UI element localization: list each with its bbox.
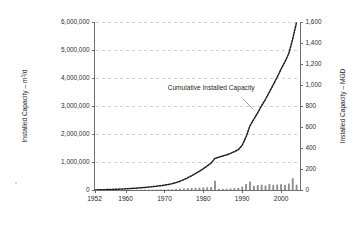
bar <box>218 189 220 190</box>
bar <box>261 185 263 190</box>
cumulative-capacity-annotation: Cumulative Installed Capacity <box>168 84 256 92</box>
left-axis-tick-label: 6,000,000 <box>61 18 90 25</box>
cumulative-capacity-line <box>95 22 297 190</box>
bar <box>230 189 232 190</box>
bar <box>206 187 208 190</box>
bar <box>183 188 185 190</box>
bar-series <box>132 178 297 190</box>
left-axis-tick-label: 5,000,000 <box>61 46 90 53</box>
x-axis-tick-label: 2000 <box>274 195 289 202</box>
left-axis-tick-label: 0 <box>86 186 90 193</box>
bar <box>265 186 267 190</box>
left-axis-tick-label: 1,000,000 <box>61 158 90 165</box>
bar <box>214 181 216 190</box>
right-axis-tick-label: 400 <box>306 144 317 151</box>
bar <box>179 189 181 190</box>
bar <box>233 188 235 190</box>
x-axis-tick-label: 1970 <box>157 195 172 202</box>
bar <box>191 188 193 190</box>
bar <box>160 190 162 191</box>
bar <box>292 178 294 190</box>
left-axis-tick-label: 2,000,000 <box>61 130 90 137</box>
x-axis-tick-label: 1990 <box>235 195 250 202</box>
left-axis-title: Installed Capacity – m3/d <box>21 69 30 142</box>
bar <box>195 188 197 190</box>
bar <box>249 182 251 190</box>
bar <box>202 187 204 190</box>
bar <box>257 185 259 190</box>
chart-figure: 01,000,0002,000,0003,000,0004,000,0005,0… <box>0 0 355 229</box>
x-axis-tick-label: 1952 <box>87 195 102 202</box>
right-axis-tick-label: 800 <box>306 102 317 109</box>
bar <box>187 188 189 190</box>
right-axis-tick-label: 0 <box>306 186 310 193</box>
annotation-leader-line <box>243 99 253 109</box>
right-axis-title: Installed Capacity – MGD <box>339 68 347 143</box>
x-axis-ticks: 195219601970198019902000 <box>87 190 289 202</box>
bar <box>226 189 228 190</box>
bar <box>296 185 298 190</box>
bar <box>241 187 243 190</box>
bar <box>280 184 282 190</box>
bar <box>210 187 212 190</box>
right-axis-tick-label: 1,000 <box>306 81 322 88</box>
bar <box>237 188 239 190</box>
bar <box>288 184 290 190</box>
right-axis-tick-label: 1,200 <box>306 60 322 67</box>
right-axis-ticks: 02004006008001,0001,2001,4001,600 <box>301 18 322 193</box>
left-axis-tick-label: 4,000,000 <box>61 74 90 81</box>
right-axis-tick-label: 1,600 <box>306 18 322 25</box>
bar <box>164 189 166 190</box>
left-axis-tick-label: 3,000,000 <box>61 102 90 109</box>
left-axis-ticks: 01,000,0002,000,0003,000,0004,000,0005,0… <box>61 18 94 193</box>
x-axis-tick-label: 1980 <box>196 195 211 202</box>
scan-artifact-dot <box>15 182 17 184</box>
bar <box>272 185 274 190</box>
bar <box>167 189 169 190</box>
bar <box>245 184 247 190</box>
bar <box>222 189 224 190</box>
bar <box>175 189 177 190</box>
chart-canvas: 01,000,0002,000,0003,000,0004,000,0005,0… <box>0 0 355 229</box>
right-axis-tick-label: 600 <box>306 123 317 130</box>
bar <box>199 188 201 190</box>
right-axis-tick-label: 200 <box>306 165 317 172</box>
bar <box>276 185 278 190</box>
bar <box>253 186 255 190</box>
bar <box>268 184 270 190</box>
bar <box>284 185 286 190</box>
x-axis-tick-label: 1960 <box>118 195 133 202</box>
right-axis-tick-label: 1,400 <box>306 39 322 46</box>
bar <box>171 189 173 190</box>
